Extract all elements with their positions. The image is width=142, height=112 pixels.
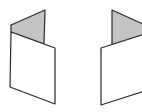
left-folded-panel: [10, 10, 55, 104]
right-panel-face: [101, 34, 142, 105]
diagram-canvas: [0, 0, 142, 112]
right-folded-panel: [101, 10, 142, 105]
left-panel-face: [10, 32, 55, 104]
